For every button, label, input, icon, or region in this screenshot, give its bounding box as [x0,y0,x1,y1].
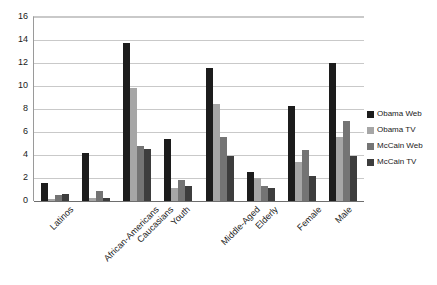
bar [227,156,234,201]
x-axis-labels: LatinosAfrican-AmericansCaucasiansYouthM… [33,201,363,285]
legend-label: McCain TV [377,158,416,166]
y-axis: 1614121086420 [0,10,32,206]
bar [62,194,69,201]
bar [302,150,309,201]
bar [171,188,178,201]
bar-group [323,17,364,201]
y-axis-tick-label: 2 [23,173,28,182]
bar [213,104,220,201]
legend-item[interactable]: Obama TV [367,126,437,134]
plot-area [33,16,364,201]
bar [343,121,350,202]
bar [268,188,275,201]
bar [144,149,151,201]
bar-group [158,17,199,201]
legend-item[interactable]: McCain TV [367,158,437,166]
legend-item[interactable]: McCain Web [367,142,437,150]
x-axis-label-cell: Female [281,201,322,285]
y-axis-tick-label: 0 [23,196,28,205]
bar [261,186,268,201]
legend-swatch-icon [367,111,374,118]
x-axis-label: Elderly [254,205,280,231]
x-axis-label-cell: African-Americans [74,201,115,285]
bar [336,137,343,201]
legend-swatch-icon [367,127,374,134]
legend-item[interactable]: Obama Web [367,110,437,118]
bar-group [117,17,158,201]
bar [309,176,316,201]
bar-groups [34,17,364,201]
bar-group [199,17,240,201]
y-axis-tick-label: 12 [18,58,28,67]
bar [41,183,48,201]
bar [206,68,213,201]
x-axis-label-cell: Male [322,201,363,285]
bar [254,178,261,201]
x-axis-label-cell: Youth [157,201,198,285]
x-axis-label: Male [334,205,354,225]
bar-group [34,17,75,201]
bar [295,162,302,201]
bar [329,63,336,201]
bar [123,43,130,201]
y-axis-tick-label: 14 [18,35,28,44]
y-axis-tick-label: 4 [23,150,28,159]
y-axis-tick-label: 16 [18,12,28,21]
y-axis-tick-label: 10 [18,81,28,90]
x-axis-label: Youth [170,205,192,227]
chart-legend: Obama WebObama TVMcCain WebMcCain TV [367,110,437,174]
bar-group [75,17,116,201]
x-axis-label-cell: Caucasians [116,201,157,285]
legend-swatch-icon [367,159,374,166]
bar [82,153,89,201]
bar [96,191,103,201]
bar [178,180,185,201]
bar-group [240,17,281,201]
bar-chart: 1614121086420 LatinosAfrican-AmericansCa… [0,0,437,285]
legend-label: Obama Web [377,110,422,118]
legend-label: Obama TV [377,126,416,134]
x-axis-label-cell: Middle-Aged [198,201,239,285]
bar [220,137,227,201]
legend-label: McCain Web [377,142,423,150]
x-axis-label-cell: Elderly [239,201,280,285]
x-axis-label-cell: Latinos [33,201,74,285]
bar [247,172,254,201]
bar [185,186,192,201]
x-axis-label: Female [296,205,324,233]
bar-group [282,17,323,201]
y-axis-tick-label: 8 [23,104,28,113]
y-axis-tick-label: 6 [23,127,28,136]
bar [350,156,357,201]
legend-swatch-icon [367,143,374,150]
bar [164,139,171,201]
bar [130,88,137,201]
x-axis-label: Latinos [48,205,75,232]
bar [288,106,295,201]
bar [137,146,144,201]
